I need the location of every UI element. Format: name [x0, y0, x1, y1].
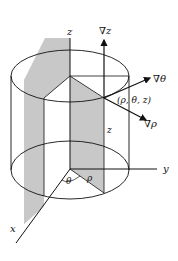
y-axis-label: y [162, 163, 169, 174]
grad-theta-label: ∇θ [153, 73, 166, 84]
radius-label: ρ [86, 173, 93, 183]
angle-label: θ [66, 176, 72, 186]
height-label: z [106, 125, 112, 135]
z-axis-label: z [66, 26, 73, 37]
point-label: (ρ, θ, z) [117, 95, 151, 105]
left-shaded-strip [24, 38, 70, 224]
grad-rho-label: ∇ρ [144, 118, 157, 129]
x-axis-label: x [10, 223, 16, 234]
grad-z-label: ∇z [99, 25, 112, 36]
cylindrical-coordinates-diagram: z ∇z ∇θ (ρ, θ, z) ∇ρ z y ρ θ x [0, 0, 178, 261]
